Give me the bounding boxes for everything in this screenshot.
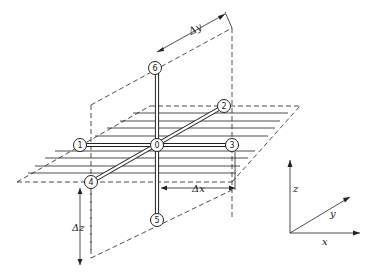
svg-text:1: 1 (77, 141, 82, 150)
svg-text:2: 2 (221, 102, 226, 111)
node-0: 0 (151, 139, 164, 152)
coordinate-axes: z y x (288, 160, 361, 247)
node-1: 1 (74, 139, 87, 152)
z-axis-label: z (292, 183, 299, 194)
dz-label: Δz (71, 222, 85, 233)
dx-label: Δx (191, 183, 205, 194)
x-axis-label: x (322, 236, 328, 247)
node-3: 3 (226, 139, 239, 152)
node-4: 4 (85, 176, 98, 189)
node-6: 6 (149, 62, 162, 75)
node-2: 2 (218, 100, 231, 113)
svg-text:6: 6 (152, 64, 157, 73)
finite-difference-stencil-diagram: Δy Δx Δz 0 1 2 3 4 5 6 (0, 0, 370, 278)
dimension-dy: Δy (157, 12, 232, 52)
dimension-dz: Δz (71, 188, 85, 265)
node-5: 5 (151, 214, 164, 227)
svg-text:5: 5 (154, 216, 159, 225)
y-axis-label: y (329, 208, 336, 219)
svg-text:0: 0 (154, 141, 159, 150)
svg-text:4: 4 (88, 178, 93, 187)
svg-text:3: 3 (229, 141, 234, 150)
